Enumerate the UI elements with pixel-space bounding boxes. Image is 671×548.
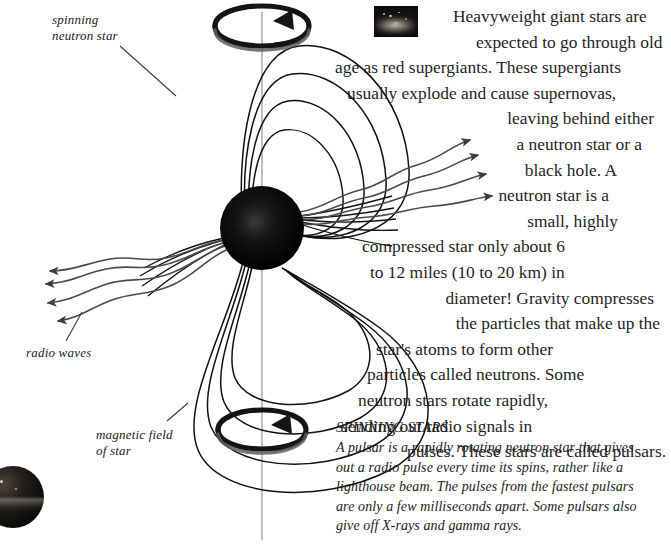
body-line: leaving behind either	[398, 106, 666, 132]
body-line: neutron star is a	[398, 183, 666, 209]
caption-body: A pulsar is a rapidly rotating neutron s…	[336, 438, 668, 536]
body-line: expected to go through old	[398, 30, 666, 56]
body-line: usually explode and cause supernovas,	[347, 81, 666, 107]
body-line: star's atoms to form other	[376, 337, 666, 363]
caption-line: A pulsar is a rapidly rotating neutron s…	[336, 438, 668, 458]
caption-block: SPINNING STARS A pulsar is a rapidly rot…	[336, 418, 668, 536]
body-line: to 12 miles (10 to 20 km) in	[370, 260, 666, 286]
body-line: small, highly	[398, 209, 666, 235]
body-line: age as red supergiants. These supergiant…	[335, 55, 666, 81]
page-root: spinning neutron star radio waves magnet…	[0, 0, 671, 548]
leader-spinning-star	[120, 46, 176, 96]
body-line: neutron stars rotate rapidly,	[358, 388, 666, 414]
caption-line: out a radio pulse every time its spins, …	[336, 458, 668, 478]
label-radio-waves: radio waves	[26, 345, 91, 361]
caption-line: are only a few milliseconds apart. Some …	[336, 497, 668, 517]
label-magnetic-field-of-star: magnetic field of star	[96, 427, 173, 459]
caption-line: lighthouse beam. The pulses from the fas…	[336, 477, 668, 497]
body-line: diameter! Gravity compresses	[398, 286, 666, 312]
neutron-star-sphere	[220, 186, 304, 270]
body-line: Heavyweight giant stars are	[398, 4, 666, 30]
caption-line: give off X-rays and gamma rays.	[336, 516, 668, 536]
radio-wave-arrows-left	[46, 240, 226, 321]
label-spinning-neutron-star: spinning neutron star	[52, 12, 118, 44]
leader-magnetic-field	[167, 403, 188, 421]
body-copy: Heavyweight giant stars are expected to …	[398, 4, 666, 465]
body-line: black hole. A	[398, 158, 666, 184]
caption-title: SPINNING STARS	[336, 418, 668, 437]
body-line: particles called neutrons. Some	[367, 362, 666, 388]
body-line: the particles that make up the	[398, 311, 666, 337]
label-leader-lines	[66, 46, 188, 421]
body-line: compressed star only about 6	[362, 234, 666, 260]
body-line: a neutron star or a	[398, 132, 666, 158]
